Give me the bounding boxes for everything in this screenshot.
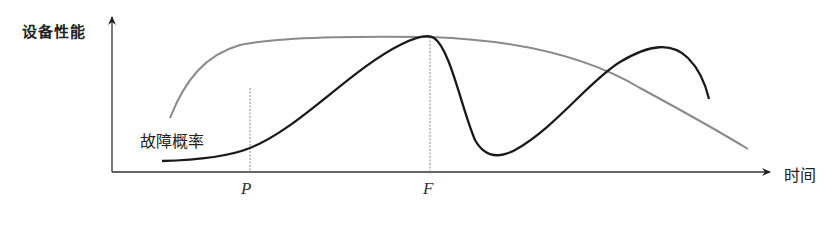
failure-probability-curve [162, 36, 709, 161]
pf-curve-diagram: 设备性能 时间 故障概率 P F [0, 0, 835, 229]
marker-p-label: P [241, 179, 251, 199]
failure-probability-label: 故障概率 [140, 128, 204, 152]
marker-f-label: F [423, 179, 433, 199]
y-axis-label: 设备性能 [22, 20, 86, 41]
x-axis-label: 时间 [784, 162, 816, 186]
diagram-canvas [0, 0, 835, 229]
